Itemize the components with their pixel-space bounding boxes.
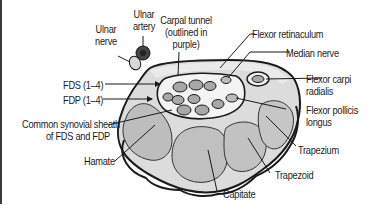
label-common-synovial-sheath: Common synovial sheath of FDS and FDP xyxy=(22,118,110,142)
carpal-tunnel xyxy=(157,73,244,119)
label-flexor-carpi-radialis: Flexor carpi radialis xyxy=(306,73,351,97)
label-carpal-tunnel: Carpal tunnel (outlined in purple) xyxy=(154,14,217,50)
label-median-nerve: Median nerve xyxy=(286,47,339,59)
label-line: nerve xyxy=(88,35,123,47)
label-line: longus xyxy=(306,116,358,128)
label-fdp: FDP (1–4) xyxy=(63,94,103,106)
label-hamate: Hamate xyxy=(84,155,115,167)
median-nerve xyxy=(221,77,231,84)
figure-canvas: Ulnar artery Ulnar nerve Carpal tunnel (… xyxy=(0,0,374,210)
label-trapezoid: Trapezoid xyxy=(275,169,313,181)
label-ulnar-nerve: Ulnar nerve xyxy=(88,23,123,47)
label-line: Common synovial sheath xyxy=(22,118,110,130)
label-flexor-retinaculum: Flexor retinaculum xyxy=(252,28,323,40)
capitate-bone xyxy=(172,127,228,183)
label-line: of FDS and FDP xyxy=(22,130,110,142)
label-line: (outlined in xyxy=(154,26,217,38)
label-line: radialis xyxy=(306,85,351,97)
label-line: Flexor pollicis xyxy=(306,104,358,116)
label-line: Flexor carpi xyxy=(306,73,351,85)
label-fds: FDS (1–4) xyxy=(63,79,103,91)
label-line: Carpal tunnel xyxy=(154,14,217,26)
label-trapezium: Trapezium xyxy=(298,144,339,156)
label-flexor-pollicis-longus: Flexor pollicis longus xyxy=(306,104,358,128)
label-line: Ulnar xyxy=(88,23,123,35)
flexor-carpi-radialis xyxy=(247,72,269,86)
label-line: purple) xyxy=(154,38,217,50)
label-capitate: Capitate xyxy=(223,188,255,200)
